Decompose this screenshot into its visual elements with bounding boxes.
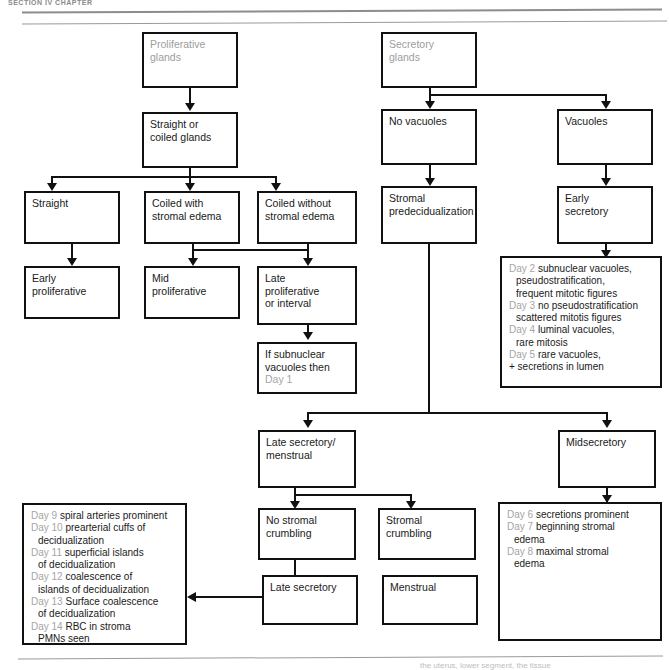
- arrowhead-down: [425, 101, 435, 109]
- box-line: Secretory: [389, 38, 470, 51]
- day-text: maximal stromal: [536, 546, 609, 557]
- day-text: subnuclear vacuoles,: [538, 263, 632, 274]
- arrowhead-down: [303, 258, 313, 266]
- day-text: rare vacuoles,: [538, 349, 601, 360]
- connector-stromal-long-stem: [428, 244, 430, 414]
- arrowhead-left: [187, 592, 196, 602]
- box-menstrual-bottom: Menstrual: [382, 575, 478, 625]
- box-line: predecidualization: [389, 205, 470, 218]
- day-cont: pseudostratification,: [509, 275, 656, 287]
- box-coiled-with-stromal-edema: Coiled with stromal edema: [144, 191, 240, 244]
- box-line: Midsecretory: [566, 436, 649, 449]
- arrowhead-down: [271, 183, 281, 191]
- arrowhead-down: [601, 101, 611, 109]
- box-line: Mid: [152, 272, 233, 285]
- box-line: crumbling: [266, 527, 349, 540]
- day-row: Day 7 beginning stromal: [507, 521, 656, 533]
- box-line: No stromal: [266, 514, 349, 527]
- day-row: Day 5 rare vacuoles,: [509, 349, 656, 361]
- day-row: Day 8 maximal stromal: [507, 546, 656, 558]
- day-row: Day 11 superficial islands: [31, 547, 181, 559]
- box-line: Coiled with: [152, 197, 233, 210]
- box-mid-proliferative: Mid proliferative: [144, 266, 240, 319]
- day-cont: rare mitosis: [509, 337, 656, 349]
- day-label: Day 3: [509, 300, 535, 311]
- day-cont: edema: [507, 558, 656, 570]
- day-text: luminal vacuoles,: [538, 324, 615, 335]
- day-cont: of decidualization: [31, 559, 181, 571]
- box-early-secretory: Early secretory: [557, 186, 653, 244]
- connector-to-daybox-menstrual: [196, 596, 262, 598]
- day-label: Day 8: [507, 546, 533, 557]
- box-midsecretory: Midsecretory: [558, 430, 656, 488]
- day-label: Day 7: [507, 521, 533, 532]
- box-line: coiled glands: [150, 131, 231, 144]
- day-row: Day 4 luminal vacuoles,: [509, 324, 656, 336]
- box-line-day: Day 1: [265, 373, 350, 386]
- day-cont: edema: [507, 534, 656, 546]
- box-vacuoles: Vacuoles: [557, 109, 653, 165]
- flowchart-page: SECTION IV CHAPTER Proliferative glands …: [0, 0, 669, 670]
- day-row: Day 14 RBC in stroma: [31, 621, 181, 633]
- arrowhead-down: [185, 183, 195, 191]
- arrowhead-down: [67, 258, 77, 266]
- day-label: Day 6: [507, 509, 533, 520]
- day-cont: scattered mitotis figures: [509, 312, 656, 324]
- box-line: Early: [565, 192, 646, 205]
- day-label: Day 9: [31, 510, 57, 521]
- box-line: Straight: [32, 197, 113, 210]
- box-early-proliferative: Early proliferative: [24, 266, 120, 319]
- day-label: Day 2: [509, 263, 535, 274]
- day-text: no pseudostratification: [538, 300, 638, 311]
- box-coiled-without-stromal-edema: Coiled without stromal edema: [257, 191, 357, 244]
- day-cont: of decidualization: [31, 608, 181, 620]
- day-row: Day 13 Surface coalescence: [31, 596, 181, 608]
- day-cont: PMNs seen: [31, 633, 181, 645]
- box-straight: Straight: [24, 191, 120, 244]
- box-secretory-glands: Secretory glands: [381, 32, 477, 88]
- box-line: stromal edema: [265, 210, 350, 223]
- box-no-stromal-crumbling: No stromal crumbling: [258, 508, 356, 560]
- day-text: secretions prominent: [536, 509, 629, 520]
- box-stromal-predecidualization: Stromal predecidualization: [381, 186, 477, 244]
- arrowhead-down: [188, 258, 198, 266]
- day-label: Day 10: [31, 522, 63, 533]
- daybox-menstrual: Day 9 spiral arteries prominent Day 10 p…: [22, 503, 187, 645]
- day-row: Day 3 no pseudostratification: [509, 300, 656, 312]
- box-line: Menstrual: [390, 581, 471, 594]
- box-line: stromal edema: [152, 210, 233, 223]
- box-line: Late: [265, 272, 350, 285]
- box-line: Proliferative: [150, 38, 231, 51]
- box-line: Stromal crumbling: [386, 514, 469, 539]
- box-late-proliferative-or-interval: Late proliferative or interval: [257, 266, 357, 325]
- box-line: No vacuoles: [389, 115, 470, 128]
- box-line: Late secretory/: [266, 436, 349, 449]
- box-late-secretory-bottom: Late secretory: [262, 575, 358, 625]
- day-row: Day 9 spiral arteries prominent: [31, 510, 181, 522]
- arrowhead-down: [303, 332, 313, 340]
- day-text: Surface coalescence: [65, 596, 158, 607]
- arrowhead-down: [601, 178, 611, 186]
- box-line: proliferative: [265, 285, 350, 298]
- box-line: menstrual: [266, 449, 349, 462]
- box-line: proliferative: [152, 285, 233, 298]
- daybox-midsecretory: Day 6 secretions prominent Day 7 beginni…: [498, 502, 662, 641]
- day-cont: frequent mitotic figures: [509, 288, 656, 300]
- box-line: Straight or: [150, 118, 231, 131]
- connector-secretory-bar: [429, 94, 607, 96]
- footer-text: the uterus, lower segment, the tissue: [420, 661, 551, 670]
- arrowhead-down: [47, 183, 57, 191]
- box-if-subnuclear-vacuoles: If subnuclear vacuoles then Day 1: [257, 342, 357, 394]
- arrowhead-down: [425, 178, 435, 186]
- connector-latemid-bar: [307, 412, 608, 414]
- box-no-vacuoles: No vacuoles: [381, 109, 477, 165]
- connector-latesec-bar: [294, 494, 412, 496]
- box-line: Stromal: [389, 192, 470, 205]
- box-line: proliferative: [32, 285, 113, 298]
- day-label: Day 12: [31, 571, 63, 582]
- day-cont: decidualization: [31, 535, 181, 547]
- box-line: Late secretory: [270, 581, 351, 594]
- header-rule-top: [22, 9, 662, 14]
- connector-coiled-bar: [192, 249, 309, 251]
- day-row: Day 10 prearterial cuffs of: [31, 522, 181, 534]
